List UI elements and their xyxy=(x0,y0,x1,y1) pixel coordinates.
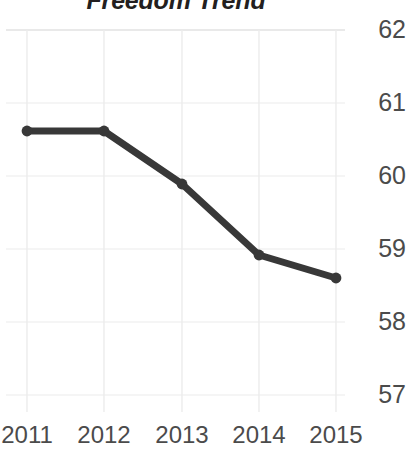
chart-container: Freedom Trend xyxy=(0,0,410,465)
y-axis-tick-58: 58 xyxy=(358,309,406,334)
horizontal-gridlines xyxy=(6,30,345,395)
y-axis-tick-61: 61 xyxy=(358,90,406,115)
y-axis-tick-62: 62 xyxy=(358,17,406,42)
data-point-2011 xyxy=(22,126,33,137)
y-axis-tick-60: 60 xyxy=(358,163,406,188)
vertical-gridlines xyxy=(27,30,336,412)
x-axis-tick-2012: 2012 xyxy=(59,422,149,448)
data-point-2014 xyxy=(254,250,265,261)
y-axis-tick-59: 59 xyxy=(358,236,406,261)
data-point-2015 xyxy=(331,273,342,284)
y-axis-tick-57: 57 xyxy=(358,382,406,407)
data-point-2013 xyxy=(177,179,188,190)
data-point-2012 xyxy=(99,126,110,137)
plot-area xyxy=(0,0,410,465)
line-chart-svg xyxy=(0,0,410,465)
x-axis-tick-2015: 2015 xyxy=(291,422,381,448)
